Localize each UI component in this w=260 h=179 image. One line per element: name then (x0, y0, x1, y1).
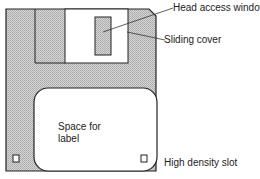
label-high-density-slot: High density slot (164, 157, 237, 168)
floppy-disk-diagram (0, 0, 260, 179)
label-head-access-window: Head access window (173, 2, 260, 13)
label-space-for-label-1: Space for (58, 121, 101, 132)
label-sliding-cover: Sliding cover (164, 34, 221, 45)
head-access-window (95, 17, 111, 55)
high-density-slot (141, 155, 147, 162)
label-space-for-label-2: label (58, 133, 79, 144)
write-protect-slot (13, 155, 19, 162)
